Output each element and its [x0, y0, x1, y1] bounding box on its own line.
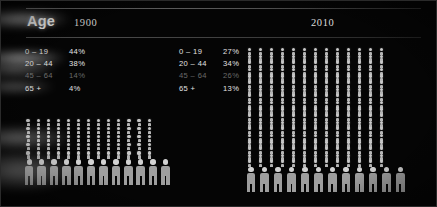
person-icon [244, 94, 255, 101]
person-icon [258, 167, 272, 192]
person-icon [255, 48, 266, 55]
person-icon [124, 151, 134, 159]
person-icon [365, 134, 376, 141]
person-icon [376, 114, 387, 121]
person-icon [277, 160, 288, 167]
person-icon [94, 143, 104, 151]
person-icon [277, 107, 288, 114]
person-icon [332, 147, 343, 154]
person-icon [144, 151, 154, 159]
person-icon [343, 88, 354, 95]
person-icon [288, 68, 299, 75]
person-icon [60, 159, 72, 184]
person-icon [332, 134, 343, 141]
pictogram-cluster-1900 [23, 119, 172, 185]
person-icon [244, 101, 255, 108]
pictogram-large-row-1900 [23, 159, 172, 184]
person-icon [354, 114, 365, 121]
person-icon [110, 159, 122, 184]
person-icon [365, 81, 376, 88]
person-icon [244, 134, 255, 141]
legend-age-band: 20 – 44 [179, 58, 223, 70]
person-icon [332, 48, 343, 55]
person-icon [53, 151, 63, 159]
legend-percentage: 44% [69, 46, 103, 58]
person-icon [376, 101, 387, 108]
person-icon [343, 61, 354, 68]
person-icon [321, 61, 332, 68]
person-icon [277, 114, 288, 121]
person-icon [23, 119, 33, 127]
person-icon [299, 81, 310, 88]
person-icon [85, 159, 97, 184]
person-icon [104, 151, 114, 159]
person-icon [354, 140, 365, 147]
person-icon [288, 160, 299, 167]
person-icon [365, 147, 376, 154]
person-icon [321, 101, 332, 108]
person-icon [73, 143, 83, 151]
person-icon [332, 81, 343, 88]
person-icon [266, 160, 277, 167]
person-icon [376, 107, 387, 114]
person-icon [73, 151, 83, 159]
person-icon [255, 61, 266, 68]
person-icon [244, 154, 255, 161]
person-icon [244, 107, 255, 114]
person-icon [144, 135, 154, 143]
person-icon [380, 167, 394, 192]
person-icon [94, 135, 104, 143]
person-icon [354, 48, 365, 55]
person-icon [310, 61, 321, 68]
person-icon [288, 154, 299, 161]
person-icon [266, 68, 277, 75]
person-icon [343, 68, 354, 75]
person-icon [299, 140, 310, 147]
person-icon [255, 81, 266, 88]
person-icon [23, 127, 33, 135]
person-icon [321, 74, 332, 81]
person-icon [321, 107, 332, 114]
person-icon [43, 151, 53, 159]
person-icon [310, 101, 321, 108]
legend-percentage: 4% [69, 83, 103, 95]
person-icon [332, 101, 343, 108]
person-icon [124, 143, 134, 151]
person-icon [244, 88, 255, 95]
person-icon [288, 114, 299, 121]
person-icon [288, 88, 299, 95]
person-icon [144, 119, 154, 127]
person-icon [332, 88, 343, 95]
person-icon [266, 74, 277, 81]
page-title: Age [27, 13, 55, 29]
person-icon [84, 135, 94, 143]
person-icon [94, 151, 104, 159]
person-icon [332, 160, 343, 167]
person-icon [114, 135, 124, 143]
person-icon [376, 94, 387, 101]
person-icon [277, 88, 288, 95]
person-icon [104, 127, 114, 135]
person-icon [266, 121, 277, 128]
person-icon [288, 107, 299, 114]
person-icon [33, 119, 43, 127]
person-icon [326, 167, 340, 192]
person-icon [332, 61, 343, 68]
person-icon [365, 88, 376, 95]
person-icon [321, 55, 332, 62]
person-icon [244, 74, 255, 81]
person-icon [144, 127, 154, 135]
person-icon [321, 134, 332, 141]
person-icon [376, 81, 387, 88]
person-icon [43, 143, 53, 151]
legend-percentage: 14% [69, 70, 103, 82]
person-icon [266, 61, 277, 68]
person-icon [266, 81, 277, 88]
person-icon [298, 167, 312, 192]
person-icon [310, 114, 321, 121]
pictogram-cluster-2010 [244, 48, 407, 192]
person-icon [310, 140, 321, 147]
person-icon [332, 55, 343, 62]
person-icon [94, 127, 104, 135]
person-icon [277, 81, 288, 88]
